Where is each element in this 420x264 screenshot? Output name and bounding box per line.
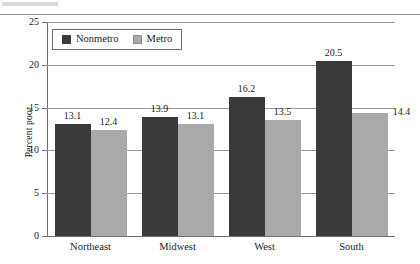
bar-midwest-nonmetro: [142, 117, 178, 236]
y-axis-tick-label: 25: [29, 17, 39, 27]
bar-value-label: 13.1: [64, 111, 82, 121]
x-axis-label-midwest: Midwest: [159, 242, 196, 253]
y-axis-tick-mark: [42, 150, 47, 151]
bar-value-label: 12.4: [100, 117, 118, 127]
y-axis-tick-mark: [42, 108, 47, 109]
y-axis-title: Percent poor: [24, 107, 34, 158]
bar-value-label: 13.5: [274, 107, 292, 117]
legend-item-metro: Metro: [133, 34, 173, 45]
page-horizontal-rule: [0, 14, 420, 15]
bar-south-metro: [352, 113, 388, 236]
bar-northeast-metro: [91, 130, 127, 236]
x-axis-label-west: West: [254, 242, 275, 253]
nonmetro-swatch-icon: [62, 35, 71, 44]
bar-northeast-nonmetro: [55, 124, 91, 236]
x-axis-label-south: South: [339, 242, 364, 253]
legend-item-nonmetro: Nonmetro: [62, 34, 119, 45]
chart-legend: Nonmetro Metro: [52, 29, 182, 50]
y-axis-line: [47, 22, 48, 236]
y-axis-tick-mark: [42, 193, 47, 194]
bar-west-metro: [265, 120, 301, 236]
bar-midwest-metro: [178, 124, 214, 236]
gridline: [47, 22, 395, 23]
y-axis-tick-label: 0: [34, 231, 39, 241]
bar-south-nonmetro: [316, 61, 352, 236]
bar-value-label: 16.2: [238, 84, 256, 94]
scan-artifact-smudge: [2, 2, 58, 6]
bar-value-label: 20.5: [325, 48, 343, 58]
bar-west-nonmetro: [229, 97, 265, 236]
metro-swatch-icon: [133, 35, 142, 44]
y-axis-tick-mark: [42, 22, 47, 23]
y-axis-tick-label: 5: [34, 188, 39, 198]
plot-area: 0510152025 13.112.413.913.116.213.520.51…: [47, 22, 395, 236]
legend-label-metro: Metro: [147, 34, 173, 45]
bar-value-label: 13.1: [187, 111, 205, 121]
x-axis-label-northeast: Northeast: [70, 242, 111, 253]
y-axis-tick-mark: [42, 65, 47, 66]
y-axis-tick-label: 20: [29, 60, 39, 70]
y-axis-tick-mark: [42, 236, 47, 237]
legend-label-nonmetro: Nonmetro: [76, 34, 119, 45]
bar-value-label: 13.9: [151, 104, 169, 114]
x-axis-line: [47, 236, 395, 237]
bar-chart-figure: 0510152025 13.112.413.913.116.213.520.51…: [0, 0, 420, 264]
bar-value-label: 14.4: [393, 107, 411, 117]
